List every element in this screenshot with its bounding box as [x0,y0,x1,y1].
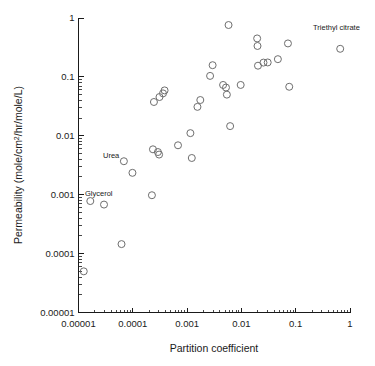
data-point-label: Triethyl citrate [313,23,360,32]
data-point-label: Glycerol [85,189,113,198]
x-axis-tick-labels: 0.000010.00010.0010.010.11 [61,318,352,329]
data-point-marker [237,81,244,88]
x-tick-label: 0.0001 [118,318,147,329]
data-point-marker [129,169,136,176]
y-axis-title: Permeability (mole/cm2/hr/mole/L) [12,86,24,244]
x-axis-ticks [79,308,351,313]
x-tick-label: 0.001 [175,318,199,329]
data-point-marker [148,192,155,199]
data-point-marker [156,151,163,158]
data-point-series [80,22,343,275]
data-point-marker [274,56,281,63]
data-point-marker [284,40,291,47]
data-point-marker [337,45,344,52]
data-point-marker [118,241,125,248]
y-tick-label: 0.00001 [40,307,74,318]
data-point-marker [254,35,261,42]
x-tick-label: 0.00001 [61,318,95,329]
data-point-marker [87,198,94,205]
data-point-marker [207,72,214,79]
scatter-plot-figure: 0.000010.00010.0010.010.11 0.000010.0001… [0,0,375,366]
x-tick-label: 1 [347,318,352,329]
data-point-marker [264,59,271,66]
data-point-label: Urea [103,151,120,160]
x-tick-label: 0.01 [232,318,251,329]
data-point-marker [227,123,234,130]
y-tick-label: 0.001 [51,189,75,200]
data-point-marker [197,97,204,104]
data-point-marker [223,91,230,98]
data-point-marker [194,103,201,110]
y-tick-label: 0.01 [56,130,75,141]
x-axis-title: Partition coefficient [170,342,259,354]
data-point-marker [254,42,261,49]
y-axis-title-post: /hr/mole/L) [12,86,24,136]
x-tick-label: 0.1 [289,318,302,329]
y-axis-title-pre: Permeability (mole/cm [12,140,24,244]
data-point-marker [101,201,108,208]
data-point-marker [225,22,232,29]
y-axis-tick-labels: 0.000010.00010.0010.010.11 [40,12,74,318]
data-point-marker [188,154,195,161]
y-tick-label: 0.1 [61,71,74,82]
point-annotations: GlycerolUreaTriethyl citrate [85,23,360,198]
plot-canvas: 0.000010.00010.0010.010.11 0.000010.0001… [0,0,375,366]
data-point-marker [209,62,216,69]
data-point-marker [175,142,182,149]
y-tick-label: 0.0001 [45,248,74,259]
y-tick-label: 1 [69,12,74,23]
data-point-marker [120,158,127,165]
data-point-marker [187,130,194,137]
data-point-marker [286,83,293,90]
